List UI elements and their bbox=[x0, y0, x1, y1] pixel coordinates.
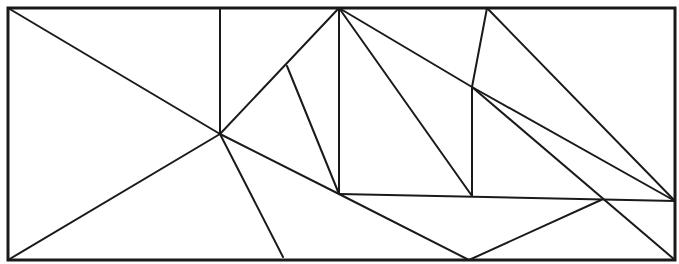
line-segment-C-B2 bbox=[220, 134, 283, 257]
line-segment-BL-C bbox=[8, 134, 220, 260]
line-segment-C-Q bbox=[220, 134, 339, 194]
line-segment-T3-R bbox=[472, 8, 487, 87]
line-segment-B1-F bbox=[469, 200, 601, 260]
line-segment-TL-C bbox=[8, 8, 220, 134]
line-segment-T2-R bbox=[339, 8, 472, 87]
line-segment-Q-E bbox=[339, 194, 675, 201]
line-segment-T3-E bbox=[487, 8, 675, 201]
line-segments-group bbox=[8, 8, 675, 260]
line-segment-R-E bbox=[472, 87, 675, 201]
outer-rectangle-frame bbox=[8, 8, 675, 260]
line-segment-Q-B1 bbox=[339, 194, 469, 260]
line-segment-P-Q bbox=[287, 66, 339, 194]
geometric-line-diagram bbox=[0, 0, 679, 264]
line-segment-R-BR bbox=[472, 87, 675, 260]
line-segment-C-T2 bbox=[220, 8, 339, 134]
line-segment-T2-S bbox=[339, 8, 472, 196]
